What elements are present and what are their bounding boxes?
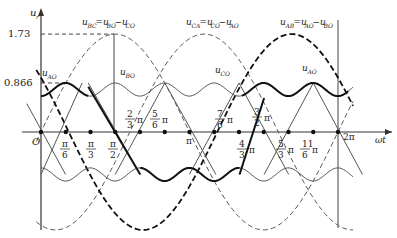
tick-5pi3-num: 5	[278, 139, 284, 149]
tick-pi6-num: π	[62, 139, 68, 149]
tick-pi3-num: π	[88, 139, 94, 149]
y-tick-1.73: 1.73	[8, 28, 30, 39]
x-axis-label: ωt	[375, 135, 386, 145]
tick-pi2-den: 2	[110, 150, 116, 160]
waveform-plot: ur1.730.866Oωtπ6π3π223π56ππ76π43π32π53π1…	[0, 0, 397, 238]
tick-7pi6-pi: π	[227, 115, 233, 125]
tick-dot-7pi6	[212, 130, 216, 134]
tick-5pi3-den: 3	[278, 150, 284, 160]
tick-dot-3pi2	[262, 130, 266, 134]
tick-4pi3-den: 3	[239, 150, 245, 160]
tick-7pi6-num: 7	[217, 109, 223, 119]
tick-3pi2-den: 2	[254, 118, 260, 128]
phase-segment-3	[165, 83, 216, 174]
label-u-ao-2-part1: AO	[307, 68, 317, 75]
tick-3pi2-num: 3	[254, 107, 260, 117]
tick-dot-2pi	[336, 130, 340, 134]
tick-5pi6-pi: π	[162, 115, 168, 125]
tick-5pi6-den: 6	[152, 120, 158, 130]
y-axis-arrow-icon	[38, 8, 44, 16]
phase-segment-5	[239, 83, 289, 174]
phase-segment-0	[41, 83, 82, 174]
label-u-bo-part1: BO	[125, 72, 136, 79]
tick-dot-pi	[187, 130, 191, 134]
tick-2pi3-num: 2	[127, 109, 133, 119]
tick-5pi6-num: 5	[152, 109, 158, 119]
tick-dot-5pi6	[163, 130, 167, 134]
label-u-ca-part5: AO	[229, 22, 239, 29]
label-u-bc-part5: CO	[126, 22, 136, 29]
waveform-diagram: ur1.730.866Oωtπ6π3π223π56ππ76π43π32π53π1…	[0, 0, 397, 238]
tick-7pi6-den: 6	[217, 120, 223, 130]
tick-11pi6-pi: π	[312, 145, 318, 155]
label-u-ab-part5: BO	[323, 22, 334, 29]
tick-2pi3-pi: π	[137, 115, 143, 125]
tick-pi2-num: π	[110, 139, 116, 149]
tick-dot-pi3	[88, 130, 92, 134]
tick-pi: π	[186, 136, 192, 146]
tick-dot-pi2	[113, 130, 117, 134]
tick-5pi3-pi: π	[288, 145, 294, 155]
u-ao-bold-4	[240, 98, 265, 174]
u-ao-bold-5	[242, 83, 348, 96]
tick-2pi3-den: 3	[127, 120, 133, 130]
tick-dot-pi6	[64, 130, 68, 134]
origin-dot	[39, 130, 43, 134]
y-tick-0.866: 0.866	[4, 77, 33, 88]
x-axis-arrow-icon	[385, 129, 392, 135]
tick-pi3-den: 3	[88, 150, 94, 160]
origin-label: O	[32, 136, 40, 147]
tick-2pi: 2π	[343, 132, 355, 142]
label-u-co-part1: CO	[221, 70, 231, 77]
tick-4pi3-num: 4	[239, 139, 245, 149]
tick-pi6-den: 6	[62, 150, 68, 160]
phase-segment-4	[189, 83, 239, 174]
tick-dot-5pi3	[286, 130, 290, 134]
tick-dot-4pi3	[237, 130, 241, 134]
tick-4pi3-pi: π	[249, 145, 255, 155]
tick-3pi2-pi: π	[264, 113, 270, 123]
label-u-ao-part1: AO	[47, 73, 57, 80]
tick-11pi6-den: 6	[302, 150, 308, 160]
tick-dot-11pi6	[311, 130, 315, 134]
tick-dot-2pi3	[138, 130, 142, 134]
